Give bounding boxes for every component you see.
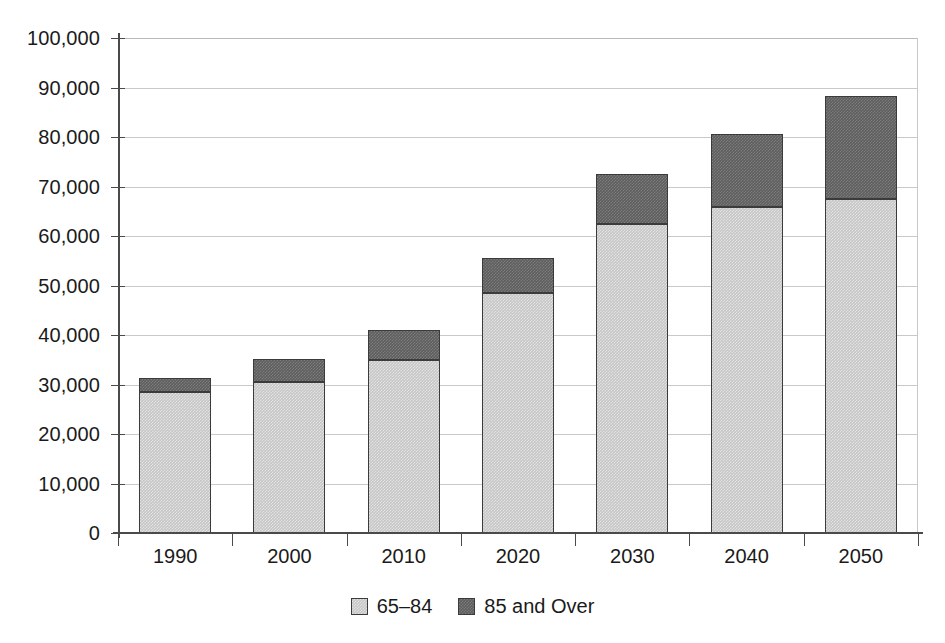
x-axis-line: [113, 532, 923, 534]
bar-segment-85-and-over: [368, 330, 440, 360]
y-axis-tick-label: 30,000: [0, 375, 100, 395]
y-axis-tick: [111, 187, 125, 188]
legend-swatch-65-84-icon: [351, 598, 368, 615]
y-axis-tick-label: 10,000: [0, 474, 100, 494]
bar-segment-65-84: [368, 360, 440, 533]
bar-segment-85-and-over: [596, 174, 668, 224]
plot-top-border: [118, 38, 918, 39]
x-axis-tick: [461, 533, 462, 546]
bar-segment-85-and-over: [253, 359, 325, 382]
legend-swatch-85-and-over-icon: [458, 598, 475, 615]
y-axis-tick: [111, 236, 125, 237]
bar-segment-85-and-over: [825, 96, 897, 199]
chart-legend: 65–84 85 and Over: [0, 596, 945, 616]
bar-segment-85-and-over: [139, 378, 211, 392]
legend-item-low: 65–84: [351, 596, 433, 616]
x-axis-tick: [689, 533, 690, 546]
bar-segment-65-84: [711, 207, 783, 533]
y-axis-tick-label: 50,000: [0, 276, 100, 296]
legend-label-85-and-over: 85 and Over: [484, 596, 594, 616]
x-axis-tick: [347, 533, 348, 546]
bar-2050: [825, 96, 897, 533]
x-axis-tick: [575, 533, 576, 546]
y-axis-tick-label: 20,000: [0, 424, 100, 444]
chart-container: 010,00020,00030,00040,00050,00060,00070,…: [0, 0, 945, 643]
x-axis-tick: [918, 533, 919, 546]
bar-segment-65-84: [825, 199, 897, 533]
gridline: [118, 88, 918, 89]
x-axis-tick-label: 2000: [236, 546, 343, 566]
y-axis-tick: [111, 335, 125, 336]
plot-area: [118, 38, 918, 533]
bar-segment-85-and-over: [711, 134, 783, 208]
y-axis-tick-label: 70,000: [0, 177, 100, 197]
y-axis-tick-label: 60,000: [0, 226, 100, 246]
x-axis-tick-label: 2040: [693, 546, 800, 566]
gridline: [118, 187, 918, 188]
x-axis-tick: [118, 533, 119, 546]
bar-2020: [482, 258, 554, 533]
x-axis-tick: [232, 533, 233, 546]
y-axis-tick: [111, 385, 125, 386]
y-axis-tick: [111, 137, 125, 138]
bar-2010: [368, 330, 440, 533]
y-axis-tick: [111, 286, 125, 287]
bar-2030: [596, 174, 668, 533]
gridline: [118, 137, 918, 138]
bar-2040: [711, 134, 783, 533]
bar-1990: [139, 378, 211, 533]
y-axis-tick: [111, 88, 125, 89]
x-axis-tick-label: 2010: [350, 546, 457, 566]
y-axis-tick-label: 0: [0, 523, 100, 543]
y-axis-tick: [111, 484, 125, 485]
y-axis-tick-label: 80,000: [0, 127, 100, 147]
legend-label-65-84: 65–84: [377, 596, 433, 616]
y-axis-tick: [111, 38, 125, 39]
x-axis-tick: [804, 533, 805, 546]
y-axis-tick-label: 90,000: [0, 78, 100, 98]
y-axis-tick-label: 40,000: [0, 325, 100, 345]
bar-segment-65-84: [139, 392, 211, 533]
y-axis-tick: [111, 434, 125, 435]
bar-segment-85-and-over: [482, 258, 554, 293]
bar-2000: [253, 359, 325, 533]
bar-segment-65-84: [482, 293, 554, 533]
legend-item-high: 85 and Over: [458, 596, 594, 616]
x-axis-tick-label: 2020: [465, 546, 572, 566]
x-axis-tick-label: 2050: [807, 546, 914, 566]
y-axis-tick-label: 100,000: [0, 28, 100, 48]
bar-segment-65-84: [253, 382, 325, 533]
bar-segment-65-84: [596, 224, 668, 533]
x-axis-tick-label: 1990: [122, 546, 229, 566]
gridline: [118, 236, 918, 237]
x-axis-tick-label: 2030: [579, 546, 686, 566]
